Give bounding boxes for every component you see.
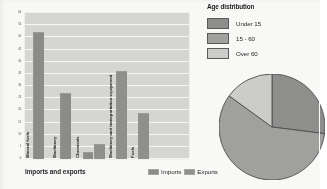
legend-swatch xyxy=(207,33,229,44)
category-label: Mineral fuels xyxy=(25,132,30,158)
pie-chart-panel: Age distribution Under 1515 - 60Over 60 xyxy=(196,0,320,189)
category-labels: Mineral fuelsMachineryChemicalsMachinery… xyxy=(24,12,190,160)
category-label: Machinery xyxy=(52,137,57,158)
bar-chart-panel: Percentage of total 05101520253035404550… xyxy=(0,2,192,189)
legend-swatch xyxy=(184,169,195,175)
pie-svg xyxy=(219,74,325,180)
y-tick-label: 20 xyxy=(18,108,21,111)
y-tick-label: 30 xyxy=(18,84,21,87)
y-tick-label: 40 xyxy=(18,59,21,62)
legend-item: 15 - 60 xyxy=(207,31,327,46)
pie-chart-graphic xyxy=(219,74,325,180)
y-tick-label: 45 xyxy=(18,47,21,50)
legend-item: Imports xyxy=(148,168,181,175)
y-tick-label: 60 xyxy=(18,11,21,14)
legend-swatch xyxy=(148,169,159,175)
category-label: Machinery and transportation equipment xyxy=(108,75,113,158)
y-tick-label: 50 xyxy=(18,35,21,38)
legend-swatch xyxy=(207,48,229,59)
legend-item: Under 15 xyxy=(207,16,327,31)
category-label: Fuels xyxy=(130,147,135,158)
pie-chart-heading: Age distribution xyxy=(207,3,254,11)
legend-item: Over 60 xyxy=(207,46,327,61)
y-tick-label: 15 xyxy=(18,120,21,123)
category-label: Chemicals xyxy=(75,136,80,158)
y-tick-label: 25 xyxy=(18,96,21,99)
pie-chart-legend: Under 1515 - 60Over 60 xyxy=(207,16,327,61)
legend-label: Under 15 xyxy=(236,20,261,27)
y-tick-label: 55 xyxy=(18,23,21,26)
y-tick-label: 35 xyxy=(18,71,21,74)
y-tick-label: 0 xyxy=(20,157,21,160)
page-right-edge xyxy=(319,0,320,189)
legend-label: Imports xyxy=(161,168,181,175)
y-tick-label: 10 xyxy=(18,132,21,135)
y-axis-tick-labels: 051015202530354045505560 xyxy=(5,12,23,160)
pie-slice xyxy=(272,74,325,134)
y-tick-label: 5 xyxy=(20,144,21,147)
legend-swatch xyxy=(207,18,229,29)
bar-chart-title: Imports and exports xyxy=(25,168,85,176)
legend-label: 15 - 60 xyxy=(236,35,255,42)
legend-label: Over 60 xyxy=(236,50,258,57)
